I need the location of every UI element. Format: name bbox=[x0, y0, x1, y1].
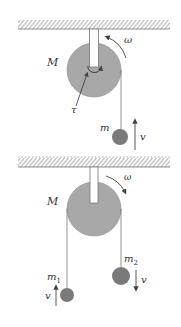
label-v2: v bbox=[141, 274, 147, 285]
label-M: M bbox=[46, 56, 59, 69]
bottom-system: M ω m2 v m1 v bbox=[18, 158, 170, 306]
axle-rod bbox=[90, 167, 98, 203]
ceiling-hatch bbox=[18, 20, 170, 29]
label-M: M bbox=[46, 195, 59, 208]
label-tau: τ bbox=[71, 104, 77, 115]
label-v: v bbox=[140, 131, 146, 142]
label-m1: m1 bbox=[47, 271, 61, 285]
ceiling-hatch bbox=[18, 158, 170, 167]
mass-m bbox=[112, 129, 128, 145]
mass-m1 bbox=[60, 288, 74, 302]
label-m2: m2 bbox=[124, 253, 138, 267]
label-omega: ω bbox=[124, 34, 132, 45]
label-v1: v bbox=[45, 290, 51, 301]
label-m: m bbox=[100, 122, 109, 133]
axle-rod bbox=[90, 29, 99, 67]
mass-m2 bbox=[112, 267, 130, 285]
top-system: M ω τ m v bbox=[18, 20, 170, 157]
label-omega: ω bbox=[124, 172, 132, 182]
pulley-diagram: M ω τ m v M ω m2 v m1 v bbox=[0, 0, 181, 327]
